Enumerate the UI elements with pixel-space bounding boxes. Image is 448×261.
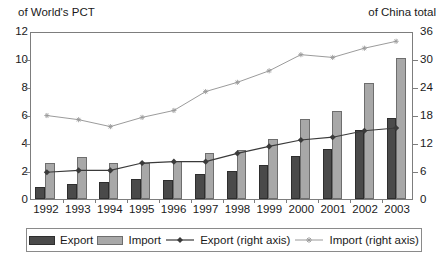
x-axis-tick-label: 2001 xyxy=(317,203,349,215)
legend-item: Export xyxy=(29,234,93,246)
bar-import xyxy=(141,163,151,199)
bar-import xyxy=(205,153,215,199)
x-axis-tick xyxy=(223,199,224,203)
legend-line-import-icon xyxy=(294,235,324,245)
legend-swatch-export-icon xyxy=(29,236,55,245)
legend-label: Export xyxy=(60,234,93,246)
chart-legend: ExportImportExport (right axis)Import (r… xyxy=(26,228,422,252)
bar-export xyxy=(67,184,77,199)
x-axis-tick xyxy=(254,199,255,203)
bar-import xyxy=(332,111,342,199)
marker-star xyxy=(140,115,145,120)
legend-item: Import (right axis) xyxy=(294,234,418,246)
right-axis-tick-label: 24 xyxy=(420,82,444,94)
bar-export xyxy=(355,130,365,199)
right-axis-tick-label: 6 xyxy=(420,166,444,178)
x-axis-tick-label: 1995 xyxy=(126,203,158,215)
x-axis-tick-label: 2000 xyxy=(285,203,317,215)
x-axis-tick-label: 1998 xyxy=(222,203,254,215)
bar-export xyxy=(227,171,237,199)
marker-star xyxy=(76,117,81,122)
x-axis-tick xyxy=(286,199,287,203)
bar-import xyxy=(396,58,406,199)
right-axis-tick xyxy=(413,116,418,117)
x-axis-tick xyxy=(318,199,319,203)
marker-star xyxy=(108,124,113,129)
line-import-right-axis xyxy=(47,41,396,126)
bar-export xyxy=(291,156,301,199)
legend-line-export-icon xyxy=(165,235,195,245)
legend-item: Import xyxy=(97,234,161,246)
x-axis-tick xyxy=(159,199,160,203)
bar-export xyxy=(323,149,333,199)
bar-import xyxy=(364,83,374,199)
bar-import xyxy=(173,161,183,200)
x-axis-tick xyxy=(63,199,64,203)
legend-label: Import (right axis) xyxy=(329,234,418,246)
bar-export xyxy=(163,180,173,199)
bar-import xyxy=(268,139,278,199)
left-axis-tick-label: 0 xyxy=(6,194,28,206)
bar-export xyxy=(35,187,45,199)
bar-import xyxy=(109,163,119,199)
right-axis-tick xyxy=(413,172,418,173)
x-axis-tick-label: 1992 xyxy=(30,203,62,215)
right-axis-tick xyxy=(413,60,418,61)
bar-export xyxy=(387,118,397,199)
bar-import xyxy=(77,157,87,199)
bar-import xyxy=(300,119,310,200)
right-axis-tick-label: 0 xyxy=(420,194,444,206)
right-axis-tick xyxy=(413,88,418,89)
marker-star xyxy=(235,80,240,85)
right-axis-tick-label: 36 xyxy=(420,26,444,38)
chart-figure: of World's PCT of China total 024681012 … xyxy=(0,0,448,261)
legend-label: Export (right axis) xyxy=(200,234,290,246)
x-axis-tick-label: 1993 xyxy=(62,203,94,215)
x-axis-tick xyxy=(191,199,192,203)
right-axis-tick xyxy=(413,144,418,145)
marker-star xyxy=(44,113,49,118)
legend-swatch-import-icon xyxy=(97,236,123,245)
marker-star xyxy=(330,55,335,60)
x-axis-tick xyxy=(127,199,128,203)
marker-star xyxy=(362,46,367,51)
x-axis-tick-label: 2003 xyxy=(381,203,413,215)
plot-area xyxy=(30,32,413,200)
bar-import xyxy=(237,150,247,199)
bar-export xyxy=(131,179,141,199)
bar-export xyxy=(195,174,205,199)
right-axis-tick-label: 12 xyxy=(420,138,444,150)
bar-import xyxy=(45,163,55,199)
marker-star xyxy=(298,52,303,57)
plot-inner xyxy=(31,33,412,199)
right-axis-tick-label: 18 xyxy=(420,110,444,122)
x-axis-tick-label: 2002 xyxy=(349,203,381,215)
x-axis-tick-label: 1997 xyxy=(190,203,222,215)
x-axis-tick xyxy=(382,199,383,203)
marker-star xyxy=(171,108,176,113)
left-axis-tick-label: 12 xyxy=(6,26,28,38)
x-axis-tick xyxy=(95,199,96,203)
line-export-right-axis xyxy=(47,128,396,172)
marker-star xyxy=(394,39,399,44)
x-axis-tick xyxy=(350,199,351,203)
left-axis-caption: of World's PCT xyxy=(18,6,95,18)
right-axis-caption: of China total xyxy=(368,6,436,18)
marker-star xyxy=(203,89,208,94)
x-axis-tick-label: 1999 xyxy=(253,203,285,215)
legend-label: Import xyxy=(128,234,161,246)
bar-export xyxy=(99,182,109,199)
marker-star xyxy=(267,68,272,73)
bar-export xyxy=(259,165,269,199)
right-axis-tick-label: 30 xyxy=(420,54,444,66)
x-axis-tick-label: 1994 xyxy=(94,203,126,215)
legend-item: Export (right axis) xyxy=(165,234,290,246)
x-axis-tick-label: 1996 xyxy=(158,203,190,215)
